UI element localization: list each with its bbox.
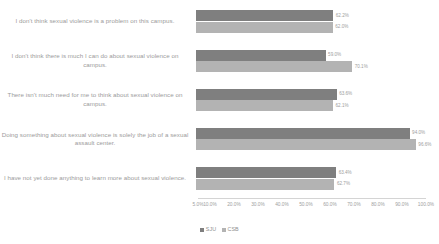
x-tick-label: 30.0%: [251, 201, 265, 208]
category-axis-label: I don't think sexual violence is a probl…: [0, 17, 196, 26]
category-axis-label: I don't think there is much I can do abo…: [0, 52, 196, 69]
x-tick-label: 90.0%: [395, 201, 409, 208]
bar-group: 59.0%70.1%: [196, 41, 439, 80]
chart-category-row: There isn't much need for me to think ab…: [0, 80, 439, 119]
bar-sju: [196, 89, 337, 100]
bar-group: 62.2%62.0%: [196, 2, 439, 41]
x-tick-label: 40.0%: [275, 201, 289, 208]
bar-group: 94.0%96.6%: [196, 120, 439, 159]
chart-category-row: Doing something about sexual violence is…: [0, 120, 439, 159]
legend-swatch-icon: [200, 228, 204, 232]
chart-legend: SJUCSB: [0, 226, 439, 233]
x-axis-line: [198, 198, 426, 199]
legend-item-csb[interactable]: CSB: [222, 226, 239, 233]
bar-value-label: 94.0%: [412, 130, 425, 136]
bar-value-label: 70.1%: [355, 64, 368, 70]
bar-value-label: 62.1%: [336, 103, 349, 109]
legend-swatch-icon: [222, 228, 226, 232]
bar-csb: [196, 61, 352, 72]
chart-category-row: I don't think there is much I can do abo…: [0, 41, 439, 80]
bar-chart: I don't think sexual violence is a probl…: [0, 0, 439, 244]
x-tick-label: 100.0%: [418, 201, 434, 208]
x-tick-label: 60.0%: [323, 201, 337, 208]
legend-label: CSB: [228, 226, 239, 233]
bar-value-label: 63.6%: [339, 91, 352, 97]
bar-csb: [196, 100, 333, 111]
category-axis-label: There isn't much need for me to think ab…: [0, 91, 196, 108]
x-tick-label: 5.0%: [193, 201, 204, 208]
bar-value-label: 63.4%: [339, 170, 352, 176]
bar-value-label: 59.0%: [328, 52, 341, 58]
x-tick-label: 10.0%: [203, 201, 217, 208]
bar-group: 63.4%62.7%: [196, 159, 439, 198]
bar-csb: [196, 179, 334, 190]
bar-csb: [196, 22, 333, 33]
bar-sju: [196, 128, 410, 139]
bar-value-label: 62.2%: [336, 13, 349, 19]
category-axis-label: Doing something about sexual violence is…: [0, 131, 196, 148]
bar-sju: [196, 167, 336, 178]
x-axis-tick-labels: 5.0%10.0%20.0%30.0%40.0%50.0%60.0%70.0%8…: [0, 201, 439, 213]
x-tick-label: 50.0%: [299, 201, 313, 208]
x-tick-label: 80.0%: [371, 201, 385, 208]
chart-category-row: I don't think sexual violence is a probl…: [0, 2, 439, 41]
x-tick-label: 70.0%: [347, 201, 361, 208]
x-tick-label: 20.0%: [227, 201, 241, 208]
bar-value-label: 62.7%: [337, 181, 350, 187]
bar-sju: [196, 10, 333, 21]
chart-category-row: I have not yet done anything to learn mo…: [0, 159, 439, 198]
legend-label: SJU: [206, 226, 216, 233]
bar-sju: [196, 50, 326, 61]
bar-group: 63.6%62.1%: [196, 80, 439, 119]
category-axis-label: I have not yet done anything to learn mo…: [0, 174, 196, 183]
legend-item-sju[interactable]: SJU: [200, 226, 216, 233]
bar-value-label: 62.0%: [335, 24, 348, 30]
bar-value-label: 96.6%: [418, 142, 431, 148]
plot-area: I don't think sexual violence is a probl…: [0, 2, 439, 198]
bar-csb: [196, 139, 416, 150]
